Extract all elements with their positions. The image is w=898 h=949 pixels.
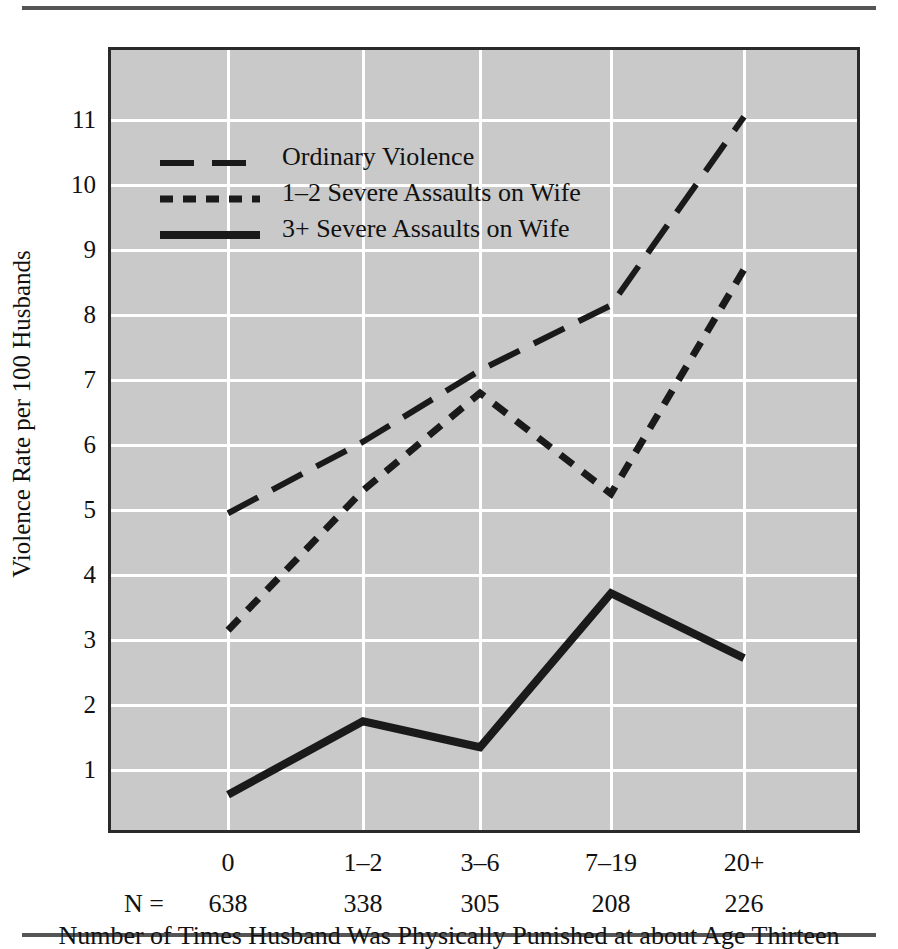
legend-item-2: 1–2 Severe Assaults on Wife bbox=[160, 176, 680, 212]
y-tick-label: 5 bbox=[36, 497, 96, 522]
y-tick-label: 8 bbox=[36, 302, 96, 327]
y-tick-label: 9 bbox=[36, 237, 96, 262]
x-sample-size: 305 bbox=[410, 889, 550, 919]
y-tick-label: 4 bbox=[36, 562, 96, 587]
x-tick-label: 3–6 bbox=[410, 848, 550, 878]
legend-line-swatch bbox=[160, 190, 260, 198]
y-tick-label: 3 bbox=[36, 627, 96, 652]
x-tick-label: 7–19 bbox=[541, 848, 681, 878]
x-tick-label: 20+ bbox=[674, 848, 814, 878]
x-axis-title: Number of Times Husband Was Physically P… bbox=[0, 921, 898, 949]
figure: 1234567891011 Violence Rate per 100 Husb… bbox=[0, 0, 898, 949]
sample-size-prefix: N = bbox=[124, 889, 164, 919]
y-tick-label: 1 bbox=[36, 757, 96, 782]
y-tick-label: 6 bbox=[36, 432, 96, 457]
y-tick-label: 10 bbox=[36, 172, 96, 197]
series-line-3 bbox=[228, 593, 744, 795]
legend-item-1: Ordinary Violence bbox=[160, 140, 680, 176]
legend: Ordinary Violence1–2 Severe Assaults on … bbox=[160, 140, 680, 248]
legend-label: Ordinary Violence bbox=[282, 140, 474, 174]
top-rule bbox=[22, 6, 876, 10]
x-sample-size: 638 bbox=[158, 889, 298, 919]
x-tick-label: 0 bbox=[158, 848, 298, 878]
x-sample-size: 226 bbox=[674, 889, 814, 919]
y-tick-label: 7 bbox=[36, 367, 96, 392]
legend-line-swatch bbox=[160, 226, 260, 234]
legend-line-swatch bbox=[160, 154, 260, 162]
legend-label: 1–2 Severe Assaults on Wife bbox=[282, 176, 581, 210]
legend-label: 3+ Severe Assaults on Wife bbox=[282, 212, 570, 246]
y-tick-label: 2 bbox=[36, 692, 96, 717]
y-tick-label: 11 bbox=[36, 107, 96, 132]
x-sample-size: 208 bbox=[541, 889, 681, 919]
series-line-2 bbox=[228, 270, 744, 631]
y-axis-title: Violence Rate per 100 Husbands bbox=[8, 94, 36, 734]
legend-item-3: 3+ Severe Assaults on Wife bbox=[160, 212, 680, 248]
